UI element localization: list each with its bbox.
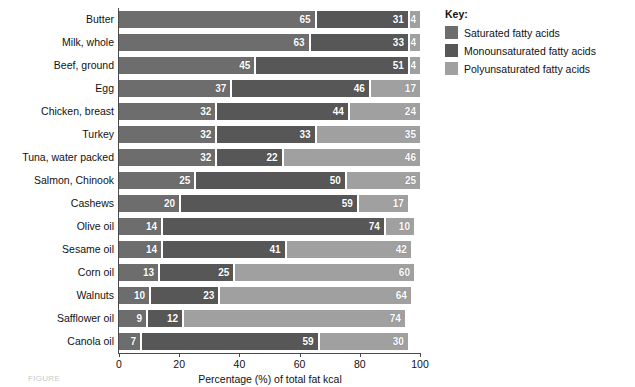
legend-item: Saturated fatty acids <box>445 26 630 39</box>
bar-segment-value: 33 <box>393 38 408 48</box>
x-axis-tick-mark <box>300 353 301 357</box>
bar-row: 374617 <box>119 80 420 97</box>
bar-track: 65314 <box>119 11 420 28</box>
bar-segment-value: 23 <box>203 291 218 301</box>
category-label: Egg <box>2 80 114 97</box>
x-axis-tick-mark <box>239 353 240 357</box>
legend-swatch-icon <box>445 26 458 39</box>
bar-segment: 64 <box>218 287 411 304</box>
bar-track: 323335 <box>119 126 420 143</box>
legend-item-label: Monounsaturated fatty acids <box>464 45 596 57</box>
bar-segment-value: 35 <box>405 130 420 140</box>
bar-segment: 25 <box>158 264 233 281</box>
bar-segment: 45 <box>119 57 254 74</box>
bar-segment-value: 59 <box>342 199 357 209</box>
bar-track: 75930 <box>119 333 420 350</box>
bar-segment: 46 <box>230 80 368 97</box>
bar-segment-value: 17 <box>393 199 408 209</box>
bar-row: 147410 <box>119 218 420 235</box>
bar-segment-value: 25 <box>405 176 420 186</box>
stacked-bar-chart: ButterMilk, wholeBeef, groundEggChicken,… <box>0 0 635 387</box>
category-label: Cashews <box>2 195 114 212</box>
category-label: Salmon, Chinook <box>2 172 114 189</box>
bar-track: 324424 <box>119 103 420 120</box>
bar-row: 205917 <box>119 195 420 212</box>
bar-segment-value: 32 <box>200 107 215 117</box>
bar-segment: 63 <box>119 34 309 51</box>
bar-segment-value: 64 <box>396 291 411 301</box>
x-axis-tick-label: 60 <box>280 358 320 370</box>
bar-segment: 20 <box>119 195 179 212</box>
bar-track: 132560 <box>119 264 420 281</box>
bar-segment-value: 17 <box>405 84 420 94</box>
bar-segment: 59 <box>179 195 357 212</box>
bar-segment: 30 <box>318 333 408 350</box>
plot-area: 6531463334455143746173244243233353222462… <box>119 8 420 353</box>
figure-caption: FIGURE <box>28 374 60 383</box>
bar-segment-value: 32 <box>200 153 215 163</box>
x-axis-tick-label: 80 <box>340 358 380 370</box>
bar-segment-value: 37 <box>215 84 230 94</box>
legend-item: Polyunsaturated fatty acids <box>445 62 630 75</box>
legend-swatch-icon <box>445 62 458 75</box>
bar-row: 324424 <box>119 103 420 120</box>
bar-segment-value: 46 <box>354 84 369 94</box>
legend-items: Saturated fatty acidsMonounsaturated fat… <box>445 26 630 75</box>
bar-track: 102364 <box>119 287 420 304</box>
bar-segment-value: 60 <box>399 268 414 278</box>
bar-segment: 32 <box>119 126 215 143</box>
bar-track: 322246 <box>119 149 420 166</box>
bar-segment-value: 32 <box>200 130 215 140</box>
x-axis-tick-mark <box>119 353 120 357</box>
legend: Key: Saturated fatty acidsMonounsaturate… <box>445 8 630 80</box>
bar-segment: 74 <box>161 218 384 235</box>
bar-segment: 32 <box>119 103 215 120</box>
bar-segment: 31 <box>315 11 408 28</box>
bar-segment-value: 51 <box>393 61 408 71</box>
bar-track: 63334 <box>119 34 420 51</box>
y-axis-line <box>118 8 119 354</box>
legend-item: Monounsaturated fatty acids <box>445 44 630 57</box>
bar-row: 323335 <box>119 126 420 143</box>
bar-segment: 33 <box>309 34 408 51</box>
bar-segment: 65 <box>119 11 315 28</box>
bar-segment-value: 74 <box>390 314 405 324</box>
x-axis-tick-mark <box>179 353 180 357</box>
bar-segment: 33 <box>215 126 314 143</box>
bar-segment: 41 <box>161 241 284 258</box>
legend-swatch-icon <box>445 44 458 57</box>
bar-segment-value: 74 <box>369 222 384 232</box>
category-label: Beef, ground <box>2 57 114 74</box>
bar-segment-value: 20 <box>164 199 179 209</box>
bar-segment: 23 <box>149 287 218 304</box>
bar-row: 144142 <box>119 241 420 258</box>
bar-segment: 59 <box>140 333 318 350</box>
bar-segment: 42 <box>285 241 411 258</box>
bar-row: 65314 <box>119 11 420 28</box>
bar-segment-value: 10 <box>134 291 149 301</box>
bar-row: 45514 <box>119 57 420 74</box>
legend-title: Key: <box>445 8 630 20</box>
bar-track: 255025 <box>119 172 420 189</box>
bar-segment-value: 33 <box>300 130 315 140</box>
bar-row: 132560 <box>119 264 420 281</box>
bar-track: 205917 <box>119 195 420 212</box>
bar-segment-value: 42 <box>396 245 411 255</box>
category-label: Milk, whole <box>2 34 114 51</box>
bar-segment-value: 24 <box>405 107 420 117</box>
category-label: Olive oil <box>2 218 114 235</box>
bar-segment-value: 14 <box>146 245 161 255</box>
bar-segment: 60 <box>233 264 414 281</box>
bar-segment-value: 4 <box>410 15 420 25</box>
bar-segment: 22 <box>215 149 281 166</box>
category-axis-labels: ButterMilk, wholeBeef, groundEggChicken,… <box>0 8 114 353</box>
bar-segment: 17 <box>357 195 408 212</box>
bar-segment: 74 <box>182 310 405 327</box>
x-axis-tick-label: 40 <box>219 358 259 370</box>
bar-segment: 14 <box>119 218 161 235</box>
bar-segment-value: 4 <box>410 38 420 48</box>
bar-track: 144142 <box>119 241 420 258</box>
category-label: Sesame oil <box>2 241 114 258</box>
bar-segment-value: 31 <box>393 15 408 25</box>
category-label: Safflower oil <box>2 310 114 327</box>
